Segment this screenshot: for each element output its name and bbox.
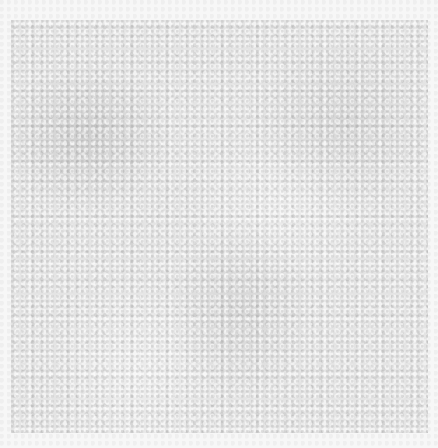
felt-texture-swatch bbox=[11, 20, 428, 433]
